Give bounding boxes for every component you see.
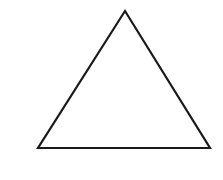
- diagram-canvas: [0, 0, 223, 180]
- triangle-shape: [38, 11, 210, 148]
- diagram-svg: [0, 0, 223, 180]
